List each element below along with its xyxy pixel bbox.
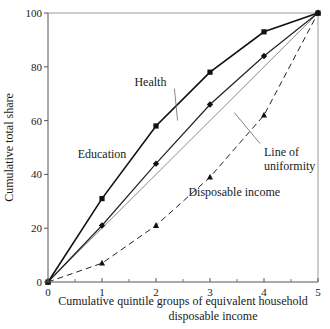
- y-tick-label: 40: [31, 168, 43, 180]
- disposable-income-triangle-marker: [207, 174, 213, 180]
- health-label: Health: [134, 75, 166, 89]
- disposable-income-triangle-marker: [99, 260, 105, 266]
- x-tick-label: 5: [315, 286, 321, 298]
- x-axis-title: Cumulative quintile groups of equivalent…: [58, 294, 308, 308]
- education-square-marker: [207, 70, 212, 75]
- disposable-income-label: Disposable income: [188, 185, 280, 199]
- y-tick-label: 80: [31, 61, 43, 73]
- disposable-income-triangle-marker: [261, 112, 267, 118]
- y-axis-title: Cumulative total share: [2, 93, 16, 202]
- y-tick-label: 0: [37, 276, 43, 288]
- line-of-uniformity-leader-line: [234, 113, 260, 144]
- education-square-marker: [99, 196, 104, 201]
- x-axis-title: disposable income: [169, 309, 258, 323]
- annotations: EducationHealthLine ofuniformityDisposab…: [78, 75, 316, 199]
- y-tick-label: 20: [31, 222, 43, 234]
- disposable-income-triangle-marker: [153, 222, 159, 228]
- x-tick-label: 0: [45, 286, 51, 298]
- y-tick-label: 100: [26, 7, 43, 19]
- lorenz-chart: 020406080100012345Cumulative total share…: [0, 0, 330, 329]
- line-of-uniformity-label: uniformity: [264, 159, 315, 173]
- education-label: Education: [78, 147, 127, 161]
- line-of-uniformity-label: Line of: [264, 145, 299, 159]
- education-square-marker: [153, 123, 158, 128]
- education-square-marker: [261, 29, 266, 34]
- y-tick-label: 60: [31, 115, 43, 127]
